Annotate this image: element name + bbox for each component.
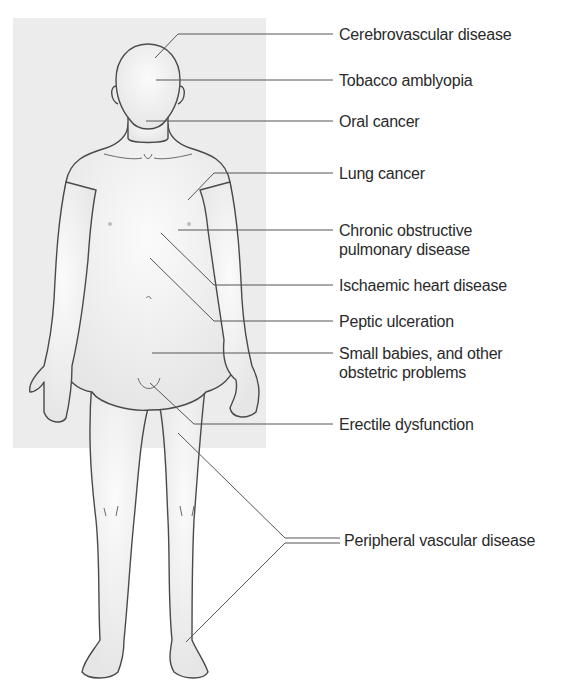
- label-small-babies: Small babies, and other obstetric proble…: [339, 344, 503, 382]
- right-leg: [160, 380, 208, 678]
- label-peptic-ulceration: Peptic ulceration: [339, 312, 454, 331]
- label-copd-line-2: pulmonary disease: [339, 240, 472, 259]
- label-small-babies-line-2: obstetric problems: [339, 363, 503, 382]
- label-ischaemic-heart-disease: Ischaemic heart disease: [339, 276, 507, 295]
- label-lung-cancer: Lung cancer: [339, 164, 425, 183]
- label-copd: Chronic obstructive pulmonary disease: [339, 221, 472, 259]
- label-cerebrovascular-disease: Cerebrovascular disease: [339, 25, 511, 44]
- nipple-right: [187, 222, 191, 226]
- label-oral-cancer: Oral cancer: [339, 112, 420, 131]
- nipple-left: [108, 222, 112, 226]
- label-small-babies-line-1: Small babies, and other: [339, 344, 503, 363]
- left-leg: [82, 380, 148, 678]
- label-peripheral-vascular-disease: Peripheral vascular disease: [344, 531, 535, 550]
- leader-pvd-ankle: [186, 543, 340, 642]
- label-tobacco-amblyopia: Tobacco amblyopia: [339, 71, 473, 90]
- label-copd-line-1: Chronic obstructive: [339, 221, 472, 240]
- leader-pvd-thigh: [178, 433, 340, 538]
- label-erectile-dysfunction: Erectile dysfunction: [339, 415, 474, 434]
